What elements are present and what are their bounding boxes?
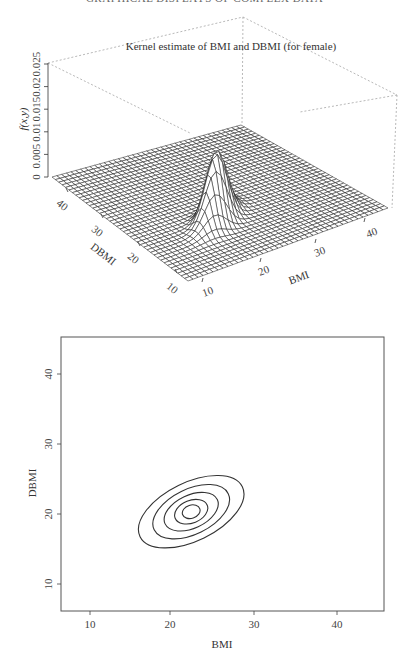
contour-lines (127, 461, 255, 563)
contour-line (144, 473, 238, 550)
x-tick-label: 40 (332, 618, 344, 630)
y-axis (57, 374, 61, 584)
y-tick-label: 30 (42, 438, 54, 450)
x-tick-label: 20 (165, 618, 177, 630)
contour-plot: 10 20 30 40 BMI 40 30 20 10 DBMI (0, 0, 409, 664)
contour-line (181, 503, 202, 521)
contour-line (158, 484, 224, 538)
x-tick-label: 10 (85, 618, 97, 630)
y-axis-title: DBMI (26, 468, 38, 497)
y-tick-label: 10 (42, 578, 54, 590)
contour-line (171, 495, 212, 529)
x-tick-label: 30 (249, 618, 261, 630)
plot-frame (61, 337, 384, 611)
x-axis-title: BMI (212, 638, 233, 650)
y-tick-label: 20 (42, 508, 54, 520)
contour-line (127, 461, 255, 563)
x-axis (90, 611, 337, 615)
y-tick-label: 40 (42, 368, 54, 380)
